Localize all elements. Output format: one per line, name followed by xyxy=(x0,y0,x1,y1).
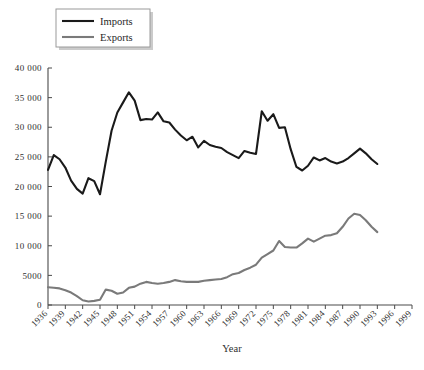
x-tick-label: 1978 xyxy=(272,308,293,329)
y-axis-group: 0500010 00015 00020 00025 00030 00035 00… xyxy=(15,63,52,310)
series-lines xyxy=(48,92,377,301)
x-tick-label: 1996 xyxy=(376,308,397,329)
x-tick-label: 1999 xyxy=(393,308,414,329)
x-tick-label: 1960 xyxy=(168,308,189,329)
x-axis-group: 1936193919421945194819511954195719601963… xyxy=(29,305,414,329)
y-tick-label: 15 000 xyxy=(15,211,42,221)
x-tick-label: 1957 xyxy=(150,308,171,329)
x-tick-label: 1975 xyxy=(254,308,275,329)
x-tick-label: 1939 xyxy=(46,308,67,329)
x-tick-marks xyxy=(48,305,412,309)
legend-label-exports: Exports xyxy=(100,32,133,43)
x-tick-labels: 1936193919421945194819511954195719601963… xyxy=(29,308,414,329)
y-tick-label: 20 000 xyxy=(15,182,42,192)
series-line-exports xyxy=(48,214,377,302)
x-tick-label: 1945 xyxy=(81,308,102,329)
x-tick-label: 1972 xyxy=(237,308,257,328)
x-tick-label: 1963 xyxy=(185,308,206,329)
y-tick-labels: 0500010 00015 00020 00025 00030 00035 00… xyxy=(15,63,42,310)
legend-label-imports: Imports xyxy=(100,16,133,27)
y-tick-label: 30 000 xyxy=(15,122,42,132)
line-chart-svg: 0500010 00015 00020 00025 00030 00035 00… xyxy=(0,0,424,370)
y-tick-label: 10 000 xyxy=(15,241,42,251)
x-tick-label: 1954 xyxy=(133,308,154,329)
x-tick-label: 1987 xyxy=(324,308,345,329)
y-tick-label: 25 000 xyxy=(15,152,42,162)
x-tick-label: 1984 xyxy=(306,308,327,329)
chart-legend: ImportsExports xyxy=(56,9,153,50)
y-tick-marks xyxy=(48,68,52,305)
x-tick-label: 1942 xyxy=(64,308,84,328)
x-tick-label: 1969 xyxy=(220,308,241,329)
y-tick-label: 35 000 xyxy=(15,93,42,103)
y-tick-label: 40 000 xyxy=(15,63,42,73)
x-tick-label: 1951 xyxy=(116,308,136,328)
x-tick-label: 1981 xyxy=(289,308,309,328)
x-tick-label: 1936 xyxy=(29,308,50,329)
x-tick-label: 1990 xyxy=(341,308,362,329)
x-tick-label: 1993 xyxy=(358,308,379,329)
x-tick-label: 1948 xyxy=(98,308,119,329)
series-line-imports xyxy=(48,92,377,194)
x-tick-label: 1966 xyxy=(202,308,223,329)
y-tick-label: 5000 xyxy=(22,271,42,281)
x-axis-title: Year xyxy=(222,343,242,354)
chart-container: 0500010 00015 00020 00025 00030 00035 00… xyxy=(0,0,424,370)
